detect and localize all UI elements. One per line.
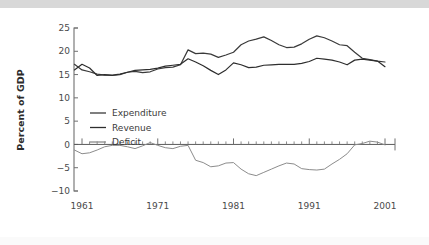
chart-figure: −10−50510152025 19611971198119912001 Per… — [0, 0, 429, 245]
y-tick-marks — [74, 28, 78, 191]
y-tick-label: 10 — [59, 93, 71, 103]
chart-legend: ExpenditureRevenueDeficit — [90, 108, 167, 147]
y-tick-labels: −10−50510152025 — [51, 23, 70, 196]
series-line-expenditure — [74, 36, 385, 76]
chart-svg: −10−50510152025 19611971198119912001 Per… — [0, 0, 429, 245]
data-series-group — [74, 36, 385, 176]
x-tick-labels: 19611971198119912001 — [71, 201, 397, 211]
y-tick-label: 0 — [64, 140, 70, 150]
x-tick-label: 1981 — [222, 201, 245, 211]
y-axis-title: Percent of GDP — [15, 69, 26, 150]
caption-ghost-text — [60, 231, 380, 240]
x-tick-label: 1991 — [298, 201, 321, 211]
y-axis-group: −10−50510152025 — [51, 23, 78, 196]
y-tick-label: 20 — [59, 46, 71, 56]
x-tick-label: 2001 — [374, 201, 397, 211]
series-line-revenue — [74, 58, 385, 75]
y-tick-label: −5 — [57, 163, 70, 173]
y-tick-label: 25 — [59, 23, 70, 33]
legend-label-revenue: Revenue — [112, 123, 152, 133]
x-tick-label: 1971 — [146, 201, 169, 211]
y-tick-label: 15 — [59, 70, 70, 80]
legend-label-deficit: Deficit — [112, 137, 142, 147]
y-axis-spine — [74, 28, 78, 191]
x-tick-label: 1961 — [71, 201, 94, 211]
y-tick-label: 5 — [64, 116, 70, 126]
legend-label-expenditure: Expenditure — [112, 108, 167, 118]
x-axis-group: 19611971198119912001 — [71, 138, 397, 211]
y-tick-label: −10 — [51, 186, 70, 196]
